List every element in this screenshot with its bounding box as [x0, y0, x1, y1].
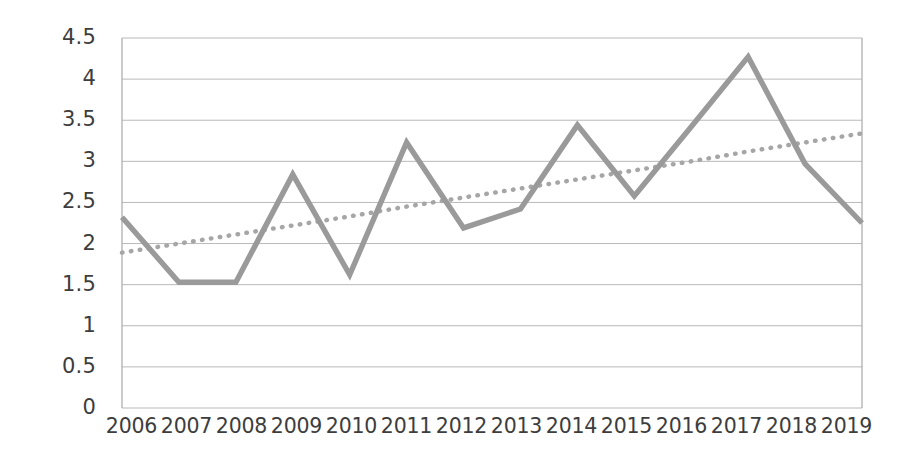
x-tick-label: 2012 [434, 414, 489, 444]
x-tick-label: 2007 [159, 414, 214, 444]
x-tick-label: 2010 [324, 414, 379, 444]
line-chart: 00.511.522.533.544.5 2006200720082009201… [0, 0, 910, 449]
x-axis: 2006200720082009201020112012201320142015… [104, 414, 874, 444]
x-tick-label: 2019 [819, 414, 874, 444]
x-tick-label: 2014 [544, 414, 599, 444]
x-tick-label: 2016 [654, 414, 709, 444]
plot-area [0, 0, 910, 449]
data-series-line [122, 57, 862, 282]
x-tick-label: 2015 [599, 414, 654, 444]
x-tick-label: 2006 [104, 414, 159, 444]
x-tick-label: 2011 [379, 414, 434, 444]
x-tick-label: 2018 [764, 414, 819, 444]
x-tick-label: 2008 [214, 414, 269, 444]
x-tick-label: 2017 [709, 414, 764, 444]
gridlines [122, 38, 862, 408]
trendline-series [122, 133, 862, 252]
x-tick-label: 2013 [489, 414, 544, 444]
plot-border [122, 38, 862, 408]
x-tick-label: 2009 [269, 414, 324, 444]
